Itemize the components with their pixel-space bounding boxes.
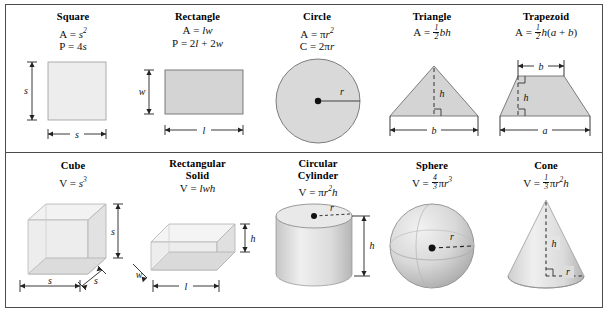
cell-square: Square A = s2 P = 4s bbox=[18, 11, 128, 53]
cube-label-width: s bbox=[48, 275, 52, 286]
cone-diagram: h r bbox=[492, 192, 602, 304]
rectangle-label-length: l bbox=[203, 125, 206, 136]
circle-label-radius: r bbox=[340, 86, 344, 97]
triangle-formula-area: A = 1 2 bh bbox=[378, 24, 486, 42]
cell-rectangular-solid: Rectangular Solid V = lwh bbox=[135, 158, 260, 195]
cell-sphere: Sphere V = 4 3 πr3 bbox=[380, 160, 484, 192]
cube-label-height: s bbox=[111, 226, 115, 237]
cube-title: Cube bbox=[18, 160, 128, 172]
rectangle-title: Rectangle bbox=[135, 11, 260, 23]
rectangular-solid-label-height: h bbox=[251, 233, 256, 244]
row-divider bbox=[5, 152, 603, 153]
circle-formula-circumference: C = 2πr bbox=[262, 40, 372, 53]
cone-label-radius: r bbox=[566, 266, 570, 277]
one-half-fraction: 1 2 bbox=[535, 24, 541, 42]
square-formula-perimeter: P = 4s bbox=[18, 40, 128, 53]
triangle-label-base: b bbox=[432, 125, 437, 136]
one-third-fraction: 1 3 bbox=[543, 174, 549, 192]
cell-rectangle: Rectangle A = lw P = 2l + 2w bbox=[135, 11, 260, 50]
trapezoid-diagram: b h a bbox=[490, 52, 604, 146]
cone-formula-volume: V = 1 3 πr2h bbox=[492, 173, 600, 192]
cell-cube: Cube V = s3 bbox=[18, 160, 128, 189]
cube-label-depth: s bbox=[94, 275, 98, 286]
cell-cone: Cone V = 1 3 πr2h bbox=[492, 160, 600, 192]
sphere-label-radius: r bbox=[450, 231, 454, 242]
circular-cylinder-title-line1: Circular bbox=[262, 158, 374, 170]
rectangular-solid-title-line2: Solid bbox=[135, 170, 260, 182]
triangle-diagram: h b bbox=[378, 58, 490, 146]
cell-circular-cylinder: Circular Cylinder V = πr2h bbox=[262, 158, 374, 199]
sphere-diagram: r bbox=[380, 196, 488, 302]
rectangular-solid-title-line1: Rectangular bbox=[135, 158, 260, 170]
trapezoid-label-top: b bbox=[539, 61, 544, 72]
cell-trapezoid: Trapezoid A = 1 2 h(a + b) bbox=[490, 11, 602, 41]
cone-label-height: h bbox=[552, 238, 557, 249]
square-diagram: s s bbox=[18, 58, 130, 146]
rectangle-formula-perimeter: P = 2l + 2w bbox=[135, 37, 260, 50]
cube-diagram: s s s bbox=[14, 190, 138, 302]
circular-cylinder-formula-volume: V = πr2h bbox=[262, 182, 374, 199]
trapezoid-formula-area: A = 1 2 h(a + b) bbox=[490, 24, 602, 42]
trapezoid-title: Trapezoid bbox=[490, 11, 602, 23]
rectangle-formula-area: A = lw bbox=[135, 24, 260, 37]
cone-title: Cone bbox=[492, 160, 600, 172]
rectangular-solid-formula-volume: V = lwh bbox=[135, 182, 260, 195]
rectangular-solid-diagram: h w l bbox=[133, 198, 261, 302]
rectangular-solid-label-depth: w bbox=[136, 269, 143, 280]
rectangle-label-width: w bbox=[139, 86, 146, 97]
circular-cylinder-label-radius: r bbox=[330, 202, 334, 213]
square-formula-area: A = s2 bbox=[18, 24, 128, 41]
circular-cylinder-label-height: h bbox=[370, 240, 375, 251]
cell-circle: Circle A = πr2 C = 2πr bbox=[262, 11, 372, 53]
triangle-title: Triangle bbox=[378, 11, 486, 23]
square-label-side-horizontal: s bbox=[75, 129, 79, 140]
circle-title: Circle bbox=[262, 11, 372, 23]
circular-cylinder-title-line2: Cylinder bbox=[262, 170, 374, 182]
triangle-label-height: h bbox=[440, 88, 445, 99]
cube-formula-volume: V = s3 bbox=[18, 173, 128, 190]
cell-triangle: Triangle A = 1 2 bh bbox=[378, 11, 486, 41]
one-half-fraction: 1 2 bbox=[433, 24, 439, 42]
square-label-side-vertical: s bbox=[24, 85, 28, 96]
rectangular-solid-label-length: l bbox=[185, 281, 188, 292]
trapezoid-label-base: a bbox=[543, 125, 548, 136]
geometry-formula-chart: Square A = s2 P = 4s s s Rectangle bbox=[0, 0, 608, 313]
circular-cylinder-diagram: r h bbox=[262, 198, 378, 302]
rectangle-diagram: w l bbox=[135, 58, 260, 146]
trapezoid-label-height: h bbox=[524, 92, 529, 103]
circle-diagram: r bbox=[262, 55, 374, 147]
sphere-title: Sphere bbox=[380, 160, 484, 172]
square-title: Square bbox=[18, 11, 128, 23]
sphere-formula-volume: V = 4 3 πr3 bbox=[380, 173, 484, 192]
circle-formula-area: A = πr2 bbox=[262, 24, 372, 41]
